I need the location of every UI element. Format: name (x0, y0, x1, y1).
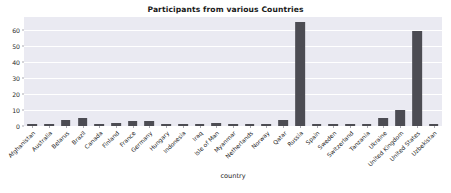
x-tick-mark (350, 126, 351, 128)
y-axis: 0102030405060 (0, 17, 24, 126)
x-tick-mark (434, 126, 435, 128)
x-tick-mark (317, 126, 318, 128)
y-tick-mark (22, 109, 24, 110)
bar-slot (141, 17, 158, 126)
y-tick-label: 60 (12, 26, 20, 33)
x-tick-mark (166, 126, 167, 128)
x-tick-mark (300, 126, 301, 128)
x-tick-mark (149, 126, 150, 128)
bar[interactable] (412, 31, 422, 126)
y-tick-mark (22, 77, 24, 78)
x-tick-label: Finland (101, 130, 120, 149)
plot-area (24, 17, 442, 126)
bar-slot (308, 17, 325, 126)
x-tick-mark (116, 126, 117, 128)
x-tick-mark (83, 126, 84, 128)
y-tick-mark (22, 61, 24, 62)
bar-slot (425, 17, 442, 126)
y-tick-label: 10 (12, 106, 20, 113)
y-tick-label: 30 (12, 74, 20, 81)
bar-slot (325, 17, 342, 126)
x-tick-mark (250, 126, 251, 128)
y-tick-mark (22, 45, 24, 46)
bar-slot (191, 17, 208, 126)
bar-slot (41, 17, 58, 126)
bar-slot (91, 17, 108, 126)
bar-slot (74, 17, 91, 126)
bar[interactable] (78, 118, 88, 126)
bar-slot (24, 17, 41, 126)
bar[interactable] (395, 110, 405, 126)
x-tick-label: Belarus (50, 130, 70, 150)
x-tick-mark (200, 126, 201, 128)
x-tick-mark (233, 126, 234, 128)
chart-title: Participants from various Countries (0, 5, 451, 14)
y-tick-label: 40 (12, 58, 20, 65)
x-tick-mark (183, 126, 184, 128)
x-tick-mark (32, 126, 33, 128)
x-tick-label: Qatar (271, 130, 287, 146)
bar-slot (174, 17, 191, 126)
x-tick-label: Iraq (191, 130, 203, 142)
x-tick-mark (49, 126, 50, 128)
bar-slot (292, 17, 309, 126)
y-tick-mark (22, 93, 24, 94)
bar-slot (342, 17, 359, 126)
bar-slot (124, 17, 141, 126)
bar-slot (208, 17, 225, 126)
bar-chart-figure: Participants from various Countries 0102… (0, 0, 451, 193)
bar-slot (108, 17, 125, 126)
bar-slot (409, 17, 426, 126)
bar[interactable] (379, 118, 389, 126)
x-tick-label: Russia (286, 130, 304, 148)
bar-slot (258, 17, 275, 126)
x-tick-mark (367, 126, 368, 128)
x-axis-label: country (24, 172, 442, 180)
y-tick-label: 0 (16, 123, 20, 130)
x-tick-mark (99, 126, 100, 128)
y-tick-mark (22, 29, 24, 30)
y-tick-label: 50 (12, 42, 20, 49)
bar-slot (158, 17, 175, 126)
x-tick-mark (133, 126, 134, 128)
bar-slot (275, 17, 292, 126)
bar-slot (392, 17, 409, 126)
x-tick-mark (216, 126, 217, 128)
x-tick-mark (283, 126, 284, 128)
bar-slot (225, 17, 242, 126)
bar-slot (57, 17, 74, 126)
x-axis: AfghanistanAustraliaBelarusBrazilCanadaF… (24, 126, 442, 176)
bar-series (24, 17, 442, 126)
bar-slot (375, 17, 392, 126)
x-tick-mark (266, 126, 267, 128)
x-tick-mark (400, 126, 401, 128)
x-tick-mark (383, 126, 384, 128)
x-tick-mark (333, 126, 334, 128)
x-tick-mark (417, 126, 418, 128)
x-tick-mark (66, 126, 67, 128)
bar[interactable] (295, 22, 305, 126)
bar-slot (241, 17, 258, 126)
bar-slot (358, 17, 375, 126)
y-tick-label: 20 (12, 90, 20, 97)
x-tick-label: Afghanistan (8, 130, 37, 159)
